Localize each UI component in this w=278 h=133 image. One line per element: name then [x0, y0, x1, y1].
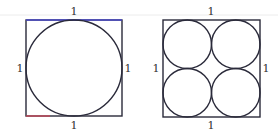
label-top: 1 — [71, 5, 78, 18]
circle-bottom-right — [212, 69, 261, 118]
label-bottom: 1 — [71, 119, 78, 132]
diagram-canvas: 1 1 1 1 1 1 1 1 — [0, 0, 278, 133]
label-bottom: 1 — [208, 119, 215, 132]
label-left: 1 — [17, 62, 24, 75]
label-right: 1 — [263, 62, 270, 75]
label-right: 1 — [125, 62, 132, 75]
circle-top-right — [212, 20, 261, 69]
figure-four-circles: 1 1 1 1 — [153, 5, 270, 132]
label-left: 1 — [153, 62, 160, 75]
square — [163, 20, 260, 117]
inscribed-circle — [26, 20, 122, 116]
circle-top-left — [163, 20, 212, 69]
circle-bottom-left — [163, 69, 212, 118]
label-top: 1 — [208, 5, 215, 18]
figure-one-circle: 1 1 1 1 — [17, 5, 132, 132]
